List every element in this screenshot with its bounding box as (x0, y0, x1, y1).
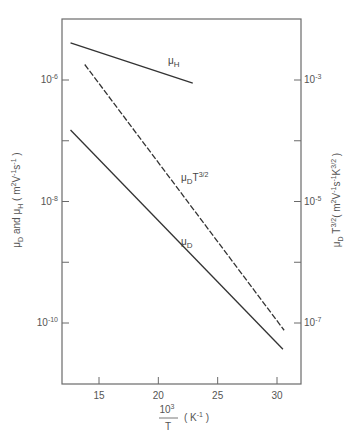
y-left-tick-label: 10-8 (41, 195, 58, 207)
y-right-tick-label: 10-7 (304, 316, 321, 328)
x-tick-label: 30 (271, 390, 283, 401)
x-axis: 15202530 (93, 377, 283, 401)
y-axis-right-title: μD T3/2( m2V-1s-1K3/2 ) (330, 153, 344, 247)
series-label-muH: μH (168, 55, 180, 69)
y-axis-right: 10-310-510-7 (294, 73, 321, 328)
series-line (85, 64, 284, 330)
y-axis-left: 10-610-810-10 (37, 73, 69, 328)
series-lines (71, 43, 285, 349)
y-left-tick-label: 10-6 (41, 73, 58, 85)
svg-text:103: 103 (159, 403, 174, 415)
svg-text:T: T (165, 421, 171, 432)
y-left-tick-label: 10-10 (37, 316, 58, 328)
x-tick-label: 15 (93, 390, 105, 401)
svg-text:μD and μH ( m2V-1s-1 ): μD and μH ( m2V-1s-1 ) (10, 152, 24, 247)
svg-text:μD T3/2( m2V-1s-1K3/2 ): μD T3/2( m2V-1s-1K3/2 ) (330, 153, 344, 247)
y-right-tick-label: 10-5 (304, 195, 321, 207)
y-axis-left-title: μD and μH ( m2V-1s-1 ) (10, 152, 24, 247)
series-line (71, 130, 283, 349)
series-label-muD: μD (181, 236, 193, 250)
x-axis-title: 103 T ( K-1 ) (159, 403, 209, 432)
plot-frame (62, 19, 301, 384)
x-tick-label: 20 (153, 390, 165, 401)
chart: 15202530 10-610-810-10 10-310-510-7 μH μ… (0, 0, 353, 445)
x-tick-label: 25 (212, 390, 224, 401)
series-label-muD-T32: μDT3/2 (181, 171, 208, 186)
svg-text:( K-1 ): ( K-1 ) (184, 411, 209, 423)
y-right-tick-label: 10-3 (304, 73, 321, 85)
